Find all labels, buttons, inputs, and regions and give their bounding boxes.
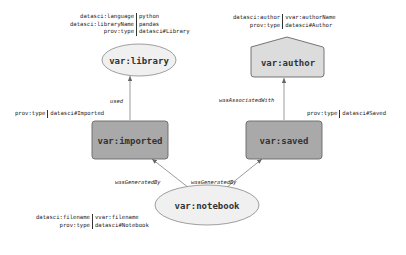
attributes-imported: prov:typedatasci#Imported: [13, 110, 106, 118]
edge-label-was-generated-by-imported: wasGeneratedBy: [115, 179, 160, 185]
node-author[interactable]: [251, 37, 324, 77]
attr-key: datasci:author: [231, 14, 283, 22]
node-imported-label: var:imported: [97, 136, 162, 146]
attr-value: datasci#Author: [283, 22, 338, 30]
attr-value: datasci#Notebook: [92, 222, 150, 230]
attr-value: datasci#Library: [137, 28, 192, 36]
attr-key: prov:type: [34, 222, 92, 230]
attr-value: python: [137, 13, 192, 21]
node-author-label: var:author: [261, 58, 315, 68]
attributes-notebook: datasci:filenamevvar:filename prov:typed…: [34, 214, 151, 229]
node-saved-label: var:saved: [260, 136, 309, 146]
attr-key: prov:type: [13, 110, 48, 118]
attr-value: vvar:filename: [92, 214, 150, 222]
attr-key: datasci:language: [68, 13, 137, 21]
edge-label-was-associated-with: wasAssociatedWith: [219, 97, 274, 103]
attr-key: prov:type: [68, 28, 137, 36]
attributes-library: datasci:languagepython datasci:libraryNa…: [68, 13, 192, 36]
attr-key: prov:type: [305, 110, 340, 118]
node-library-label: var:library: [109, 56, 169, 66]
edge-label-was-generated-by-saved: wasGeneratedBy: [191, 179, 236, 185]
attr-key: datasci:libraryName: [68, 21, 137, 29]
attr-value: datasci#Imported: [48, 110, 106, 118]
attr-key: datasci:filename: [34, 214, 92, 222]
attr-key: prov:type: [231, 22, 283, 30]
attr-value: vvar:authorName: [283, 14, 338, 22]
attributes-saved: prov:typedatasci#Saved: [305, 110, 388, 118]
attributes-author: datasci:authorvvar:authorName prov:typed…: [231, 14, 338, 29]
attr-value: pandas: [137, 21, 192, 29]
edge-label-used: used: [110, 98, 123, 104]
node-notebook-label: var:notebook: [174, 201, 239, 211]
attr-value: datasci#Saved: [340, 110, 388, 118]
